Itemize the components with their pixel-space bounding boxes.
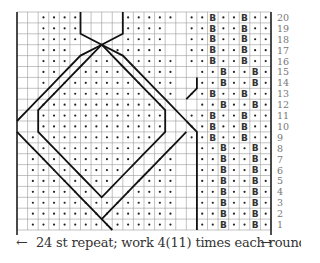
purl-dot [74, 38, 76, 40]
purl-dot [159, 191, 161, 193]
purl-dot [64, 147, 66, 149]
purl-dot [64, 27, 66, 29]
purl-dot [53, 104, 55, 106]
row-number-label: 6 [277, 165, 283, 176]
tbl-symbol: B [252, 176, 259, 186]
purl-dot [233, 60, 235, 62]
purl-dot [148, 60, 150, 62]
purl-dot [169, 82, 171, 84]
purl-dot [95, 125, 97, 127]
purl-dot [233, 93, 235, 95]
purl-dot [201, 136, 203, 138]
purl-dot [127, 27, 129, 29]
purl-dot [222, 93, 224, 95]
purl-dot [233, 223, 235, 225]
purl-dot [201, 169, 203, 171]
purl-dot [201, 213, 203, 215]
purl-dot [127, 136, 129, 138]
row-number-label: 9 [277, 132, 283, 143]
purl-dot [95, 114, 97, 116]
purl-dot [265, 93, 267, 95]
purl-dot [95, 104, 97, 106]
purl-dot [64, 213, 66, 215]
purl-dot [116, 82, 118, 84]
purl-dot [243, 158, 245, 160]
purl-dot [74, 93, 76, 95]
purl-dot [138, 147, 140, 149]
purl-dot [53, 49, 55, 51]
purl-dot [233, 169, 235, 171]
purl-dot [127, 82, 129, 84]
purl-dot [201, 202, 203, 204]
purl-dot [95, 169, 97, 171]
purl-dot [201, 114, 203, 116]
purl-dot [64, 104, 66, 106]
purl-dot [85, 93, 87, 95]
purl-dot [85, 125, 87, 127]
purl-dot [212, 104, 214, 106]
cable-outline [133, 67, 186, 122]
purl-dot [233, 202, 235, 204]
purl-dot [106, 158, 108, 160]
purl-dot [74, 147, 76, 149]
purl-dot [64, 38, 66, 40]
purl-dot [138, 27, 140, 29]
purl-dot [127, 114, 129, 116]
purl-dot [95, 82, 97, 84]
purl-dot [116, 49, 118, 51]
purl-dot [243, 147, 245, 149]
purl-dot [106, 60, 108, 62]
purl-dot [116, 136, 118, 138]
purl-dot [85, 82, 87, 84]
purl-dot [265, 71, 267, 73]
purl-dot [191, 38, 193, 40]
purl-dot [138, 49, 140, 51]
purl-dot [74, 202, 76, 204]
purl-dot [265, 169, 267, 171]
purl-dot [148, 16, 150, 18]
purl-dot [243, 202, 245, 204]
purl-dot [74, 136, 76, 138]
purl-dot [53, 213, 55, 215]
tbl-symbol: B [220, 209, 227, 219]
purl-dot [138, 114, 140, 116]
tbl-symbol: B [209, 45, 216, 55]
purl-dot [42, 202, 44, 204]
row-number-label: 14 [277, 77, 289, 88]
tbl-symbol: B [252, 165, 259, 175]
purl-dot [265, 180, 267, 182]
purl-dot [148, 49, 150, 51]
purl-dot [265, 223, 267, 225]
purl-dot [148, 213, 150, 215]
purl-dot [106, 104, 108, 106]
purl-dot [32, 180, 34, 182]
purl-dot [169, 223, 171, 225]
purl-dot [64, 49, 66, 51]
purl-dot [243, 223, 245, 225]
purl-dot [148, 125, 150, 127]
purl-dot [85, 191, 87, 193]
purl-dot [233, 82, 235, 84]
purl-dot [233, 147, 235, 149]
tbl-symbol: B [252, 209, 259, 219]
purl-dot [233, 213, 235, 215]
purl-dot [159, 38, 161, 40]
purl-dot [138, 213, 140, 215]
purl-dot [222, 27, 224, 29]
purl-dot [201, 104, 203, 106]
purl-dot [254, 93, 256, 95]
row-number-label: 5 [277, 175, 283, 186]
purl-dot [265, 38, 267, 40]
tbl-symbol: B [220, 154, 227, 164]
purl-dot [127, 16, 129, 18]
purl-dot [254, 16, 256, 18]
purl-dot [42, 191, 44, 193]
tbl-symbol: B [220, 67, 227, 77]
purl-dot [106, 71, 108, 73]
purl-dot [64, 114, 66, 116]
purl-dot [32, 158, 34, 160]
purl-dot [116, 169, 118, 171]
purl-dot [95, 60, 97, 62]
tbl-symbol: B [252, 143, 259, 153]
purl-dot [53, 191, 55, 193]
